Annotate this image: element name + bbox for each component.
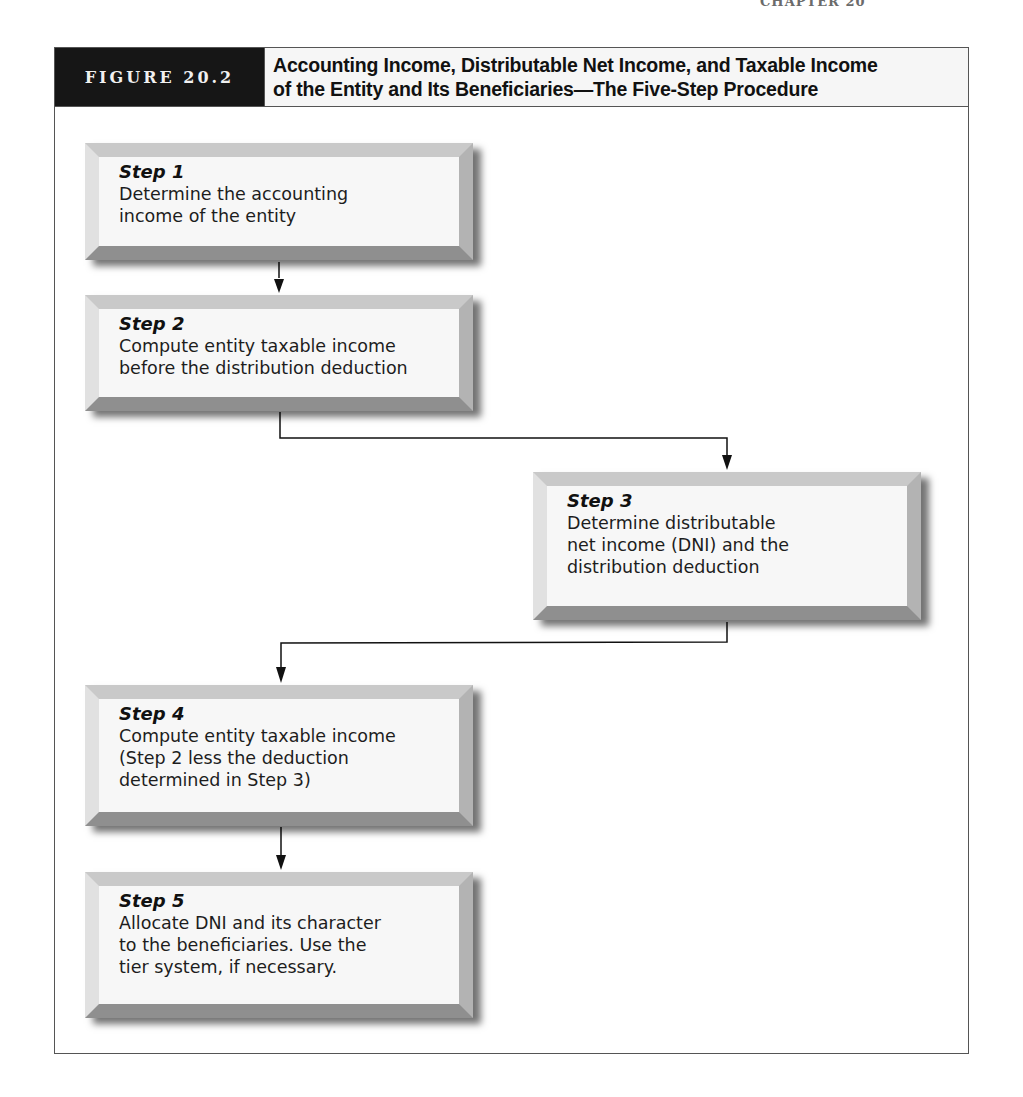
step-3-text-line-2: net income (DNI) and the: [567, 534, 899, 556]
step-2-title: Step 2: [119, 313, 451, 335]
step-5-title: Step 5: [119, 890, 451, 912]
step-4-text-line-3: determined in Step 3): [119, 769, 451, 791]
step-5-text-line-2: to the beneficiaries. Use the: [119, 934, 451, 956]
step-5-box: Step 5 Allocate DNI and its character to…: [85, 872, 473, 1018]
step-3-title: Step 3: [567, 490, 899, 512]
step-4-text-line-1: Compute entity taxable income: [119, 725, 451, 747]
step-4-title: Step 4: [119, 703, 451, 725]
figure-title: Accounting Income, Distributable Net Inc…: [264, 48, 968, 106]
step-3-text-line-3: distribution deduction: [567, 556, 899, 578]
step-3-box: Step 3 Determine distributable net incom…: [533, 472, 921, 620]
step-2-text-line-1: Compute entity taxable income: [119, 335, 451, 357]
step-1-title: Step 1: [119, 161, 451, 183]
step-3-text-line-1: Determine distributable: [567, 512, 899, 534]
step-5-text-line-3: tier system, if necessary.: [119, 956, 451, 978]
step-2-box: Step 2 Compute entity taxable income bef…: [85, 295, 473, 411]
step-1-box: Step 1 Determine the accounting income o…: [85, 143, 473, 260]
step-1-text-line-1: Determine the accounting: [119, 183, 451, 205]
figure-title-line-2: of the Entity and Its Beneficiaries—The …: [273, 77, 960, 101]
figure-header: FIGURE 20.2 Accounting Income, Distribut…: [55, 48, 968, 107]
page-running-header: CHAPTER 20: [760, 0, 866, 9]
step-4-box: Step 4 Compute entity taxable income (St…: [85, 685, 473, 826]
figure-title-line-1: Accounting Income, Distributable Net Inc…: [273, 53, 960, 77]
figure-label: FIGURE 20.2: [55, 48, 264, 106]
step-2-text-line-2: before the distribution deduction: [119, 357, 451, 379]
step-5-text-line-1: Allocate DNI and its character: [119, 912, 451, 934]
step-1-text-line-2: income of the entity: [119, 205, 451, 227]
step-4-text-line-2: (Step 2 less the deduction: [119, 747, 451, 769]
